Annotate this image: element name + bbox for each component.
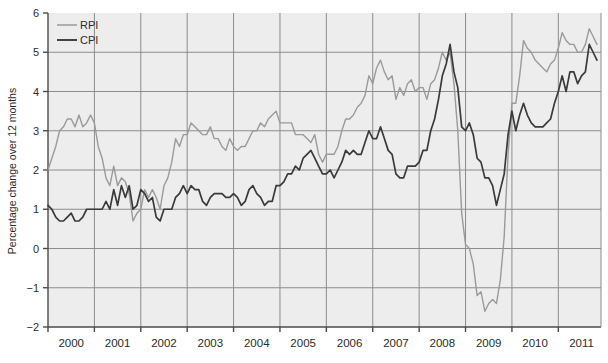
x-tick-label: 2003 bbox=[198, 337, 224, 349]
x-tick-label: 2001 bbox=[105, 337, 131, 349]
y-tick-label: 3 bbox=[33, 125, 39, 137]
x-tick-label: 2008 bbox=[430, 337, 456, 349]
x-tick-label: 2011 bbox=[569, 337, 594, 349]
legend-label-rpi: RPI bbox=[80, 19, 98, 31]
y-tick-label: 5 bbox=[33, 46, 39, 58]
x-tick-label: 2005 bbox=[290, 337, 316, 349]
inflation-line-chart: Percentage change over 12 months −2−1012… bbox=[0, 0, 608, 363]
y-tick-label: 0 bbox=[33, 243, 39, 255]
y-tick-label: 2 bbox=[33, 164, 39, 176]
x-tick-label: 2000 bbox=[58, 337, 84, 349]
x-tick-label: 2004 bbox=[244, 337, 270, 349]
y-tick-label: −1 bbox=[26, 282, 39, 294]
chart-canvas: −2−1012345620002001200220032004200520062… bbox=[0, 0, 608, 363]
y-tick-label: −2 bbox=[26, 321, 39, 333]
y-tick-label: 1 bbox=[33, 203, 39, 215]
x-tick-label: 2002 bbox=[151, 337, 177, 349]
legend-label-cpi: CPI bbox=[80, 34, 98, 46]
y-tick-label: 6 bbox=[33, 7, 39, 19]
x-tick-label: 2009 bbox=[476, 337, 502, 349]
y-tick-label: 4 bbox=[33, 86, 39, 98]
x-tick-label: 2007 bbox=[383, 337, 409, 349]
x-tick-label: 2010 bbox=[522, 337, 548, 349]
x-tick-label: 2006 bbox=[337, 337, 363, 349]
